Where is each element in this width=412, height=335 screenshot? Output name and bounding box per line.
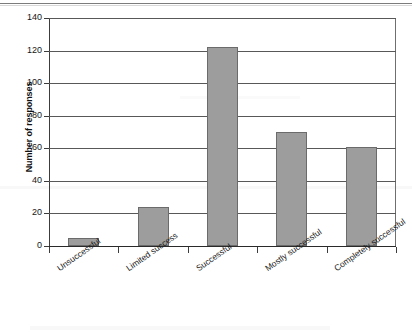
y-tick-mark-120 bbox=[44, 51, 49, 52]
y-tick-label-20: 20 bbox=[2, 208, 42, 217]
y-tick-mark-60 bbox=[44, 148, 49, 149]
y-tick-mark-100 bbox=[44, 83, 49, 84]
y-tick-label-140: 140 bbox=[2, 13, 42, 22]
y-tick-mark-20 bbox=[44, 213, 49, 214]
y-tick-label-80: 80 bbox=[2, 111, 42, 120]
y-tick-label-120: 120 bbox=[2, 46, 42, 55]
y-tick-label-60: 60 bbox=[2, 143, 42, 152]
plot-area bbox=[49, 18, 396, 246]
bar bbox=[346, 147, 377, 246]
y-tick-mark-40 bbox=[44, 181, 49, 182]
y-tick-mark-140 bbox=[44, 18, 49, 19]
gridline-140 bbox=[49, 18, 396, 19]
y-tick-label-40: 40 bbox=[2, 176, 42, 185]
x-axis-label-group: UnsuccessfulLimited successSuccessfulMos… bbox=[0, 246, 412, 335]
bar bbox=[276, 132, 307, 246]
y-tick-mark-80 bbox=[44, 116, 49, 117]
x-axis-label: Successful bbox=[194, 241, 233, 273]
bar-chart-figure: Number of responses 020406080100120140 U… bbox=[0, 0, 412, 335]
y-axis-tick-group: 020406080100120140 bbox=[0, 18, 42, 247]
bar bbox=[207, 47, 238, 246]
y-tick-label-100: 100 bbox=[2, 78, 42, 87]
